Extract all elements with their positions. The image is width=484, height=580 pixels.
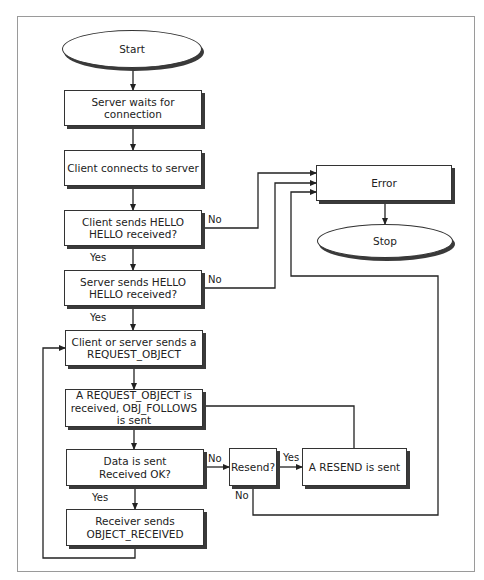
- node-wait: Server waits for connection: [64, 90, 202, 126]
- node-label: Stop: [373, 235, 397, 248]
- node-request: Client or server sends a REQUEST_OBJECT: [65, 330, 203, 366]
- node-start: Start: [62, 30, 202, 68]
- node-connect: Client connects to server: [64, 150, 202, 186]
- node-obj-follows: A REQUEST_OBJECT is received, OBJ_FOLLOW…: [65, 389, 203, 427]
- node-label: Server waits for connection: [65, 96, 201, 121]
- node-label: Client connects to server: [67, 162, 199, 175]
- node-label: Data is sent Received OK?: [99, 455, 171, 480]
- node-label: Error: [371, 177, 397, 190]
- connector-server-hello-to-error: [202, 183, 316, 288]
- node-label: Resend?: [231, 461, 275, 474]
- node-label: Receiver sends OBJECT_RECEIVED: [86, 515, 183, 540]
- node-label: Client or server sends a REQUEST_OBJECT: [72, 336, 197, 361]
- node-stop: Stop: [317, 224, 453, 258]
- node-label: Client sends HELLO HELLO received?: [82, 216, 184, 241]
- node-label: A RESEND is sent: [309, 461, 400, 474]
- flowchart-canvas: StartServer waits for connectionClient c…: [0, 0, 484, 580]
- connector-obj-follows-to-resend-sent: [203, 406, 354, 448]
- node-label: Start: [119, 43, 145, 56]
- edge-label-yes: Yes: [283, 452, 299, 463]
- node-resend-q: Resend?: [229, 448, 277, 486]
- node-obj-received: Receiver sends OBJECT_RECEIVED: [66, 509, 204, 546]
- node-label: Server sends HELLO HELLO received?: [80, 276, 186, 301]
- node-error: Error: [316, 165, 452, 201]
- edge-label-no: No: [235, 490, 249, 501]
- edge-label-no: No: [208, 453, 222, 464]
- node-label: A REQUEST_OBJECT is received, OBJ_FOLLOW…: [71, 389, 197, 427]
- node-resend-sent: A RESEND is sent: [302, 448, 407, 486]
- node-data-sent: Data is sent Received OK?: [66, 449, 204, 486]
- edge-label-no: No: [208, 274, 222, 285]
- edge-label-no: No: [208, 214, 222, 225]
- node-server-hello: Server sends HELLO HELLO received?: [64, 270, 202, 306]
- edge-label-yes: Yes: [92, 492, 108, 503]
- edge-label-yes: Yes: [90, 312, 106, 323]
- node-client-hello: Client sends HELLO HELLO received?: [64, 210, 202, 246]
- edge-label-yes: Yes: [90, 252, 106, 263]
